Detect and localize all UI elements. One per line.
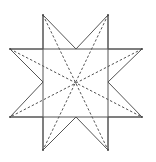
vertex-dot	[9, 116, 11, 118]
star-edge	[43, 117, 76, 150]
vertex-dot	[107, 149, 109, 151]
vertex-dot	[42, 149, 44, 151]
vertex-dot	[107, 14, 109, 16]
vertex-dot	[141, 116, 143, 118]
eight-point-star-diagram	[0, 0, 156, 162]
vertex-dot	[141, 48, 143, 50]
vertex-dot	[9, 48, 11, 50]
star-edge	[108, 82, 142, 117]
star-edge	[43, 15, 76, 49]
star-edge	[10, 82, 43, 117]
star-edge	[10, 49, 43, 82]
vertex-dot	[42, 14, 44, 16]
star-edge	[76, 117, 108, 150]
star-dashed-diagonals	[10, 15, 142, 150]
star-edge	[108, 49, 142, 82]
star-edge	[76, 15, 108, 49]
